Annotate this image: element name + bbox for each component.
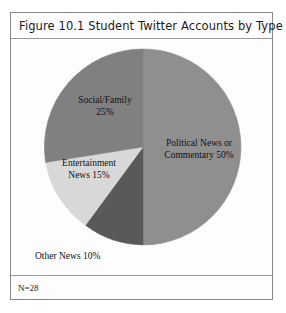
- pie-label-social-family: Social/Family 25%: [57, 94, 153, 118]
- pie-label-social-family-line1: Social/Family: [57, 94, 153, 106]
- pie-label-social-family-line2: 25%: [57, 106, 153, 118]
- pie-label-entertainment-news-line2: News 15%: [37, 169, 141, 181]
- pie-label-other-news: Other News 10%: [35, 250, 155, 262]
- figure-footnote-bar: N=28: [11, 275, 272, 299]
- page-title: Figure 10.1 Student Twitter Accounts by …: [11, 19, 283, 33]
- sample-size-note: N=28: [11, 283, 39, 293]
- figure-container: Figure 10.1 Student Twitter Accounts by …: [10, 12, 273, 300]
- pie-label-political-news-line2: Commentary 50%: [145, 149, 253, 161]
- pie-label-entertainment-news-line1: Entertainment: [37, 157, 141, 169]
- pie-label-political-news-line1: Political News or: [145, 137, 253, 149]
- pie-label-political-news: Political News or Commentary 50%: [145, 137, 253, 161]
- pie-label-entertainment-news: Entertainment News 15%: [37, 157, 141, 181]
- figure-title-bar: Figure 10.1 Student Twitter Accounts by …: [11, 13, 272, 39]
- pie-chart-plot-area: Social/Family 25% Political News or Comm…: [11, 39, 272, 277]
